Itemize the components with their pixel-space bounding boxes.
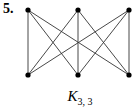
vertex-b3: [126, 72, 131, 77]
vertex-b2: [75, 72, 80, 77]
graph-label: K3, 3: [0, 88, 139, 107]
vertex-b1: [25, 72, 30, 77]
graph-edges: [28, 10, 129, 75]
vertex-a2: [75, 7, 80, 12]
graph-subscript: 3, 3: [78, 96, 93, 107]
vertex-a3: [126, 7, 131, 12]
graph-name: K: [67, 88, 77, 104]
vertex-a1: [25, 7, 30, 12]
